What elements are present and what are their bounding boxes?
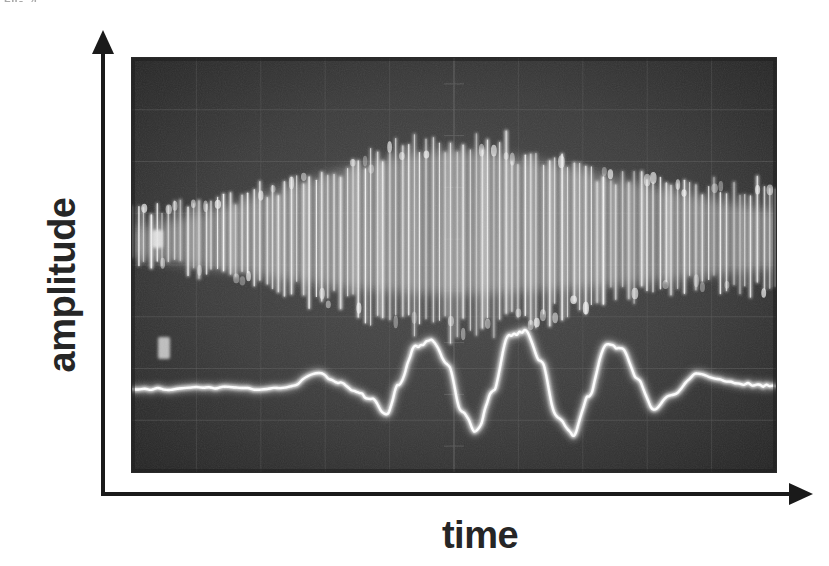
oscilloscope-photograph: [132, 58, 776, 472]
y-axis-line: [101, 48, 105, 496]
figure-container: FIG. 4 amplitude time: [0, 0, 829, 566]
film-grain-overlay: [132, 58, 776, 472]
x-axis-arrowhead-icon: [789, 483, 813, 505]
x-axis-label: time: [355, 512, 605, 558]
clipped-header-text: FIG. 4: [4, 0, 38, 2]
x-axis-line: [101, 492, 801, 496]
y-axis-label: amplitude: [39, 160, 85, 410]
scope-screen-svg: [132, 58, 776, 472]
y-axis-arrowhead-icon: [92, 30, 114, 54]
